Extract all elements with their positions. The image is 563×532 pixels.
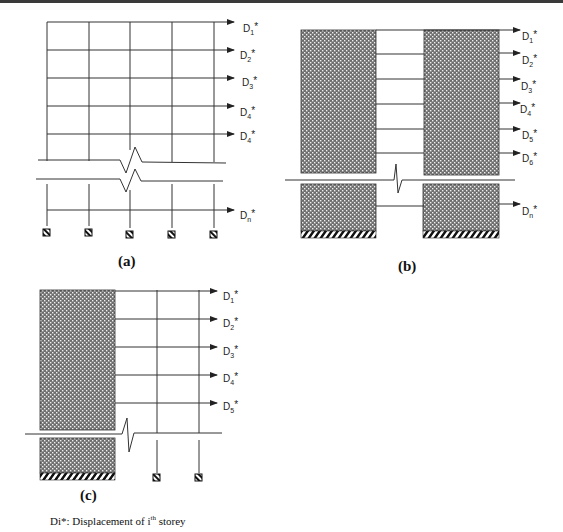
disp-label: D4* <box>223 371 238 386</box>
disp-label: D4* <box>240 105 255 120</box>
disp-label: Dn* <box>522 204 537 219</box>
panel-c-wall-frame <box>25 290 222 481</box>
disp-label: Dn* <box>240 208 255 223</box>
figure-caption: Di*: Displacement of ith storey <box>50 514 186 527</box>
fixed-support-icon <box>168 231 175 238</box>
disp-label: D5* <box>522 128 537 143</box>
break-line-upper <box>38 147 226 173</box>
panel-b-coupled-walls <box>285 30 520 238</box>
disp-label: D5* <box>223 399 238 414</box>
shear-wall-left <box>301 30 376 173</box>
fixed-support-icon <box>195 474 202 481</box>
disp-label: D4* <box>240 129 255 144</box>
caption-text: Di*: Displacement of i <box>50 515 151 527</box>
disp-label: D1* <box>223 289 238 304</box>
disp-label: D2* <box>223 316 238 331</box>
panel-label-a: (a) <box>118 253 136 270</box>
panel-a-labels: D1* D2* D3* D4* D4* Dn* (a) <box>118 21 258 270</box>
fixed-base-hatch <box>301 231 376 238</box>
shear-wall-right <box>424 30 499 175</box>
fixed-support-icon <box>126 231 133 238</box>
shear-wall-right-base <box>423 184 499 231</box>
disp-label: D2* <box>240 48 255 63</box>
break-line-lower <box>36 169 223 192</box>
disp-label: D1* <box>522 29 537 44</box>
disp-label: D3* <box>223 344 238 359</box>
caption-suffix: storey <box>156 515 186 527</box>
shear-wall-left-base <box>301 184 376 231</box>
panel-label-b: (b) <box>398 258 416 275</box>
fixed-support-icon <box>210 231 217 238</box>
disp-label: D6* <box>522 151 537 166</box>
disp-label: D2* <box>522 53 537 68</box>
shear-wall-base <box>40 438 115 473</box>
disp-label: D4* <box>520 102 535 117</box>
disp-label: D1* <box>243 21 258 36</box>
fixed-base-hatch <box>423 231 499 238</box>
fixed-support-icon <box>153 474 160 481</box>
panel-label-c: (c) <box>80 487 97 504</box>
disp-label: D3* <box>521 79 536 94</box>
panel-a-bare-frame <box>36 22 234 228</box>
fixed-base-hatch <box>40 473 115 480</box>
shear-wall <box>40 290 115 430</box>
disp-label: D3* <box>242 75 257 90</box>
fixed-support-icon <box>85 229 92 236</box>
fixed-support-icon <box>43 229 50 236</box>
structural-diagram: D1* D2* D3* D4* D4* Dn* (a) <box>0 0 563 532</box>
panel-a-supports <box>43 229 217 238</box>
